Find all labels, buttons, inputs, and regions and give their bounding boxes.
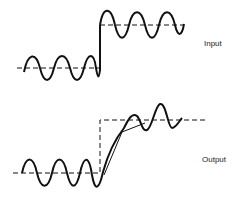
- input-wave-low: [24, 25, 100, 80]
- output-signal: [13, 104, 205, 187]
- diagram: Input Output: [0, 0, 240, 198]
- input-label: Input: [204, 39, 222, 48]
- input-signal: [17, 11, 184, 80]
- output-wave: [22, 104, 182, 187]
- output-reference-dashed-line: [13, 120, 205, 173]
- output-label: Output: [202, 155, 226, 164]
- input-wave-high: [100, 11, 184, 38]
- signal-diagram: [0, 0, 240, 198]
- output-ramp-line: [104, 123, 145, 175]
